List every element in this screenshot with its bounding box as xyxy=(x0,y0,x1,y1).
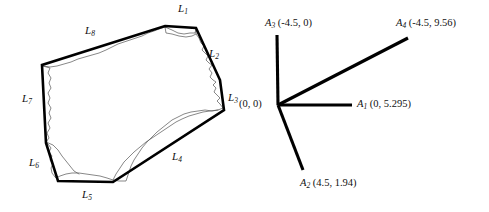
figure-container: L1 L2 L3 L4 L5 L6 L7 L8 (0, 0) A1 (0, 5.… xyxy=(0,0,489,212)
edge-label-l6: L6 xyxy=(29,157,39,170)
vector-line-a3 xyxy=(277,35,278,105)
edge-label-l1: L1 xyxy=(178,3,188,16)
origin-label: (0, 0) xyxy=(239,99,262,110)
convex-hull-edges xyxy=(42,26,224,182)
edge-label-l7: L7 xyxy=(22,93,32,106)
edge-label-l3: L3 xyxy=(228,92,238,105)
vector-line-a4 xyxy=(278,38,408,105)
vector-label-a4: A4 (-4.5, 9.56) xyxy=(396,18,456,30)
vector-label-a3: A3 (-4.5, 0) xyxy=(265,18,312,30)
edge-label-l5: L5 xyxy=(82,189,92,202)
edge-label-l2: L2 xyxy=(209,48,219,61)
edge-label-l8: L8 xyxy=(85,25,95,38)
vector-line-a2 xyxy=(278,105,303,170)
edge-label-l4: L4 xyxy=(172,151,182,164)
rock-rough-outline xyxy=(43,27,223,181)
vector-label-a2: A2 (4.5, 1.94) xyxy=(300,178,357,190)
vector-label-a1: A1 (0, 5.295) xyxy=(357,99,411,111)
